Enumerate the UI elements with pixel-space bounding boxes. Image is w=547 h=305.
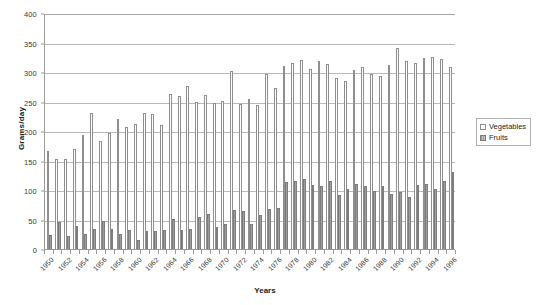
y-tick-label-400: 400 (24, 10, 37, 19)
bar-fruits (119, 234, 122, 249)
x-tick-label-1964: 1964 (157, 256, 178, 277)
bar-fruits (111, 229, 114, 249)
plot-area (44, 14, 455, 250)
bar-group (71, 14, 80, 249)
bar-group (316, 14, 325, 249)
bar-fruits (102, 221, 105, 249)
bar-fruits (434, 189, 437, 249)
x-tick-label-1960: 1960 (122, 256, 143, 277)
bar-fruits (312, 185, 315, 249)
x-tick-label-1978: 1978 (280, 256, 301, 277)
x-tick-label-1988: 1988 (367, 256, 388, 277)
bar-group (220, 14, 229, 249)
bar-group (97, 14, 106, 249)
bar-group (447, 14, 456, 249)
bar-fruits (172, 219, 175, 249)
x-tick-label-1952: 1952 (52, 256, 73, 277)
x-tick-label-1972: 1972 (227, 256, 248, 277)
bar-fruits (58, 222, 61, 249)
bar-group (342, 14, 351, 249)
bar-group (106, 14, 115, 249)
bar-fruits (294, 181, 297, 249)
bar-fruits (146, 231, 149, 249)
bar-fruits (303, 179, 306, 249)
bar-group (89, 14, 98, 249)
x-tick-label-1994: 1994 (420, 256, 441, 277)
x-tick-label-1980: 1980 (297, 256, 318, 277)
bar-group (272, 14, 281, 249)
bar-group (264, 14, 273, 249)
bar-fruits (250, 224, 253, 249)
y-tick-label-200: 200 (24, 128, 37, 137)
bar-group (124, 14, 133, 249)
bar-vegetables (47, 151, 50, 249)
x-tick-label-1976: 1976 (262, 256, 283, 277)
x-tick-label-1954: 1954 (70, 256, 91, 277)
legend-label: Vegetables (489, 122, 526, 131)
bar-fruits (224, 224, 227, 249)
bar-group (325, 14, 334, 249)
x-tick-label-1986: 1986 (350, 256, 371, 277)
bar-vegetables (186, 86, 189, 249)
bars-layer (45, 14, 455, 249)
bar-fruits (128, 230, 131, 249)
bar-group (307, 14, 316, 249)
y-tick-label-50: 50 (28, 216, 37, 225)
bar-fruits (93, 229, 96, 249)
bar-fruits (233, 210, 236, 249)
bar-fruits (181, 230, 184, 249)
bar-group (404, 14, 413, 249)
legend-item-fruits[interactable]: Fruits (480, 133, 526, 142)
legend-item-vegetables[interactable]: Vegetables (480, 122, 526, 131)
x-axis-title: Years (0, 286, 530, 295)
bar-fruits (443, 181, 446, 249)
x-tick-label-1970: 1970 (210, 256, 231, 277)
bar-fruits (382, 186, 385, 249)
bar-group (54, 14, 63, 249)
x-tick-label-1990: 1990 (385, 256, 406, 277)
bar-fruits (425, 184, 428, 249)
bar-group (141, 14, 150, 249)
bar-fruits (320, 186, 323, 249)
x-axis-labels: 1950195219541956195819601962196419661968… (0, 250, 547, 290)
bar-fruits (417, 185, 420, 249)
bar-fruits (189, 229, 192, 249)
bar-group (115, 14, 124, 249)
chart-legend: VegetablesFruits (476, 118, 531, 146)
x-tick-label-1966: 1966 (175, 256, 196, 277)
bar-group (150, 14, 159, 249)
y-tick-label-100: 100 (24, 187, 37, 196)
bar-group (395, 14, 404, 249)
x-tick-label-1984: 1984 (332, 256, 353, 277)
bar-vegetables (143, 113, 146, 249)
bar-fruits (268, 209, 271, 249)
bar-vegetables (82, 135, 85, 249)
bar-fruits (277, 208, 280, 249)
bar-fruits (390, 194, 393, 249)
bar-group (377, 14, 386, 249)
x-tick-label-1996: 1996 (437, 256, 458, 277)
bar-group (45, 14, 54, 249)
bar-fruits (207, 214, 210, 249)
bar-group (439, 14, 448, 249)
bar-group (430, 14, 439, 249)
bar-group (360, 14, 369, 249)
x-tick-label-1982: 1982 (315, 256, 336, 277)
bar-group (386, 14, 395, 249)
bar-fruits (329, 181, 332, 249)
x-tick-label-1968: 1968 (192, 256, 213, 277)
bar-group (194, 14, 203, 249)
bar-group (351, 14, 360, 249)
y-tick-label-250: 250 (24, 98, 37, 107)
bar-fruits (49, 235, 52, 249)
bar-fruits (216, 227, 219, 249)
bar-fruits (347, 189, 350, 249)
bar-group (290, 14, 299, 249)
bar-fruits (67, 236, 70, 249)
bar-group (176, 14, 185, 249)
y-tick-label-300: 300 (24, 69, 37, 78)
legend-label: Fruits (489, 133, 508, 142)
x-tick-label-1958: 1958 (105, 256, 126, 277)
bar-fruits (452, 172, 455, 249)
bar-vegetables (178, 96, 181, 249)
